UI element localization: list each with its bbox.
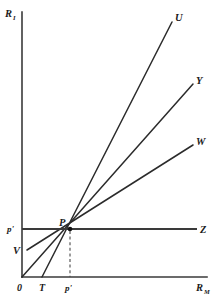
curve-label-w: W	[196, 136, 206, 147]
point-p-marker	[68, 227, 73, 232]
x-tick-label-t: T	[39, 282, 46, 293]
x-axis-label: R	[195, 282, 203, 293]
origin-label: 0	[17, 282, 22, 293]
y-axis-label: R	[4, 8, 12, 19]
y-tick-label-p-prime: p'	[6, 224, 15, 234]
x-tick-label-p-prime: p'	[64, 283, 73, 293]
curve-label-v: V	[13, 245, 21, 256]
chart-background	[0, 0, 223, 303]
y-axis-label-subscript: I	[12, 14, 16, 21]
curve-label-z: Z	[199, 224, 207, 235]
point-label-p: P	[59, 217, 66, 228]
x-axis-label-subscript: M	[203, 288, 210, 295]
figure-container: R I R M U Y W Z V P p' 0 T p'	[0, 0, 223, 303]
chart-svg: R I R M U Y W Z V P p' 0 T p'	[0, 0, 223, 303]
